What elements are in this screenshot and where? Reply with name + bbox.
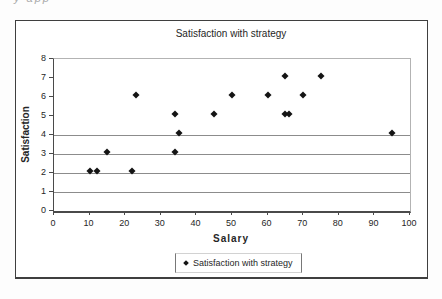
x-tick-label: 10 (77, 218, 101, 228)
y-tick-label: 3 (28, 148, 46, 158)
x-tick-mark (53, 211, 54, 215)
scanned-chart-page: y app Satisfaction with strategy Satisfa… (0, 0, 442, 299)
x-tick-mark (160, 211, 161, 215)
data-point-marker (132, 91, 139, 98)
y-tick-label: 1 (28, 186, 46, 196)
y-tick-label: 7 (28, 72, 46, 82)
gridline-y-1 (54, 192, 410, 193)
data-point-marker (171, 110, 178, 117)
x-tick-mark (267, 211, 268, 215)
data-point-marker (285, 110, 292, 117)
data-point-marker (317, 72, 324, 79)
x-tick-label: 20 (112, 218, 136, 228)
x-tick-label: 40 (183, 218, 207, 228)
y-tick-label: 8 (28, 53, 46, 63)
y-tick-label: 6 (28, 91, 46, 101)
legend-label: Satisfaction with strategy (193, 258, 293, 268)
plot-area (53, 58, 411, 213)
data-point-marker (264, 91, 271, 98)
x-tick-mark (373, 211, 374, 215)
x-tick-label: 100 (397, 218, 421, 228)
y-tick-label: 4 (28, 129, 46, 139)
x-tick-label: 80 (326, 218, 350, 228)
x-tick-mark (89, 211, 90, 215)
x-tick-mark (338, 211, 339, 215)
y-tick-mark (49, 153, 53, 154)
x-tick-mark (302, 211, 303, 215)
x-tick-label: 30 (148, 218, 172, 228)
legend: Satisfaction with strategy (175, 253, 302, 273)
y-tick-mark (49, 191, 53, 192)
chart-title: Satisfaction with strategy (53, 28, 409, 39)
gridline-y-2 (54, 173, 410, 174)
data-point-marker (300, 91, 307, 98)
y-tick-label: 5 (28, 110, 46, 120)
x-tick-mark (231, 211, 232, 215)
y-tick-mark (49, 96, 53, 97)
chart-frame: Satisfaction with strategy Satisfaction … (15, 20, 428, 279)
x-tick-mark (124, 211, 125, 215)
data-point-marker (211, 110, 218, 117)
cropped-header-text: y app (14, 0, 51, 4)
x-tick-label: 0 (41, 218, 65, 228)
x-tick-label: 60 (255, 218, 279, 228)
data-point-marker (228, 91, 235, 98)
x-tick-mark (195, 211, 196, 215)
data-point-marker (282, 72, 289, 79)
x-tick-label: 70 (290, 218, 314, 228)
y-tick-mark (49, 58, 53, 59)
y-tick-mark (49, 172, 53, 173)
legend-diamond-icon (183, 260, 189, 266)
y-tick-mark (49, 77, 53, 78)
x-axis-title: Salary (53, 233, 409, 244)
x-tick-label: 50 (219, 218, 243, 228)
y-tick-label: 0 (28, 205, 46, 215)
y-tick-label: 2 (28, 167, 46, 177)
y-tick-mark (49, 115, 53, 116)
y-tick-mark (49, 134, 53, 135)
x-tick-mark (409, 211, 410, 215)
gridline-y-4 (54, 135, 410, 136)
x-tick-label: 90 (361, 218, 385, 228)
